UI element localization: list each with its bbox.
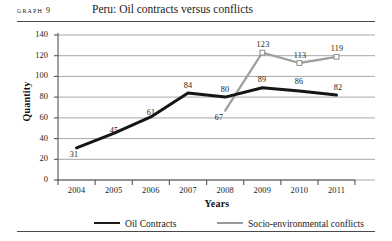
x-tick-label: 2004 bbox=[57, 186, 97, 195]
y-tick-label: 100 bbox=[12, 71, 48, 80]
data-label-oil: 45 bbox=[99, 126, 129, 135]
footer-divider bbox=[17, 231, 375, 232]
x-tick-label: 2006 bbox=[131, 186, 171, 195]
data-label-oil: 31 bbox=[59, 150, 89, 159]
data-label-oil: 89 bbox=[247, 75, 277, 84]
x-axis bbox=[58, 180, 355, 185]
y-tick-label: 60 bbox=[12, 113, 48, 122]
data-label-conflicts: 123 bbox=[248, 40, 278, 49]
data-label-conflicts: 113 bbox=[285, 51, 315, 60]
x-tick-label: 2007 bbox=[168, 186, 208, 195]
x-tick-label: 2005 bbox=[94, 186, 134, 195]
legend-label: Socio-environmental conflicts bbox=[248, 218, 364, 229]
chart-plot-area: Quantity 140 120 100 80 60 40 20 0 2004 … bbox=[0, 0, 392, 241]
x-tick-label: 2011 bbox=[317, 186, 357, 195]
x-axis-label: Years bbox=[58, 198, 376, 209]
data-label-oil: 84 bbox=[173, 81, 203, 90]
y-tick-label: 120 bbox=[12, 51, 48, 60]
x-tick-label: 2009 bbox=[242, 186, 282, 195]
data-label-oil: 82 bbox=[323, 83, 353, 92]
y-axis bbox=[54, 33, 58, 181]
y-tick-label: 40 bbox=[12, 134, 48, 143]
gridlines bbox=[58, 35, 375, 180]
legend-swatch-icon bbox=[217, 222, 243, 224]
x-tick-label: 2008 bbox=[205, 186, 245, 195]
chart-legend: Oil Contracts Socio-environmental confli… bbox=[17, 216, 375, 230]
legend-item-socio-environmental-conflicts[interactable]: Socio-environmental conflicts bbox=[217, 216, 364, 230]
y-tick-label: 140 bbox=[12, 30, 48, 39]
y-tick-label: 80 bbox=[12, 92, 48, 101]
legend-item-oil-contracts[interactable]: Oil Contracts bbox=[94, 216, 176, 230]
data-label-conflicts: 67 bbox=[204, 113, 234, 122]
series-line-conflicts bbox=[225, 53, 336, 111]
legend-label: Oil Contracts bbox=[125, 218, 176, 229]
data-label-oil: 80 bbox=[210, 85, 240, 94]
data-label-oil: 86 bbox=[284, 77, 314, 86]
figure: Graph 9 Peru: Oil contracts versus confl… bbox=[0, 0, 392, 241]
data-label-conflicts: 119 bbox=[322, 44, 352, 53]
data-label-oil: 61 bbox=[136, 108, 166, 117]
x-tick-label: 2010 bbox=[279, 186, 319, 195]
legend-swatch-icon bbox=[94, 222, 120, 224]
y-tick-label: 0 bbox=[12, 175, 48, 184]
y-tick-label: 20 bbox=[12, 154, 48, 163]
